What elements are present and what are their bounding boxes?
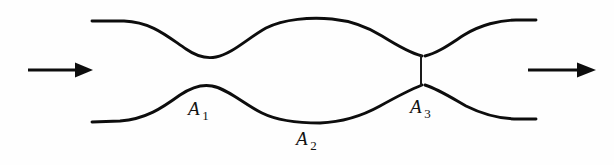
outlet-arrow-head bbox=[577, 63, 596, 78]
outlet-flow-arrow bbox=[528, 63, 596, 78]
area-label-a1: A1 bbox=[188, 99, 209, 122]
upper-duct-wall-left bbox=[92, 18, 422, 57]
area-label-a3-subscript: 3 bbox=[422, 106, 431, 121]
area-label-a2-subscript: 2 bbox=[308, 138, 317, 153]
area-label-a3: A3 bbox=[410, 97, 431, 120]
lower-duct-wall-left bbox=[92, 85, 422, 123]
area-label-a1-symbol: A bbox=[188, 98, 200, 119]
area-label-a1-subscript: 1 bbox=[200, 108, 209, 123]
area-label-a2-symbol: A bbox=[296, 128, 308, 149]
inlet-arrow-head bbox=[75, 63, 93, 78]
inlet-flow-arrow bbox=[28, 63, 93, 78]
area-label-a3-symbol: A bbox=[410, 96, 422, 117]
lower-duct-wall-right bbox=[425, 85, 536, 119]
area-label-a2: A2 bbox=[296, 129, 317, 152]
upper-duct-wall-right bbox=[425, 20, 536, 56]
duct-diagram-figure: A1 A2 A3 bbox=[0, 0, 614, 165]
